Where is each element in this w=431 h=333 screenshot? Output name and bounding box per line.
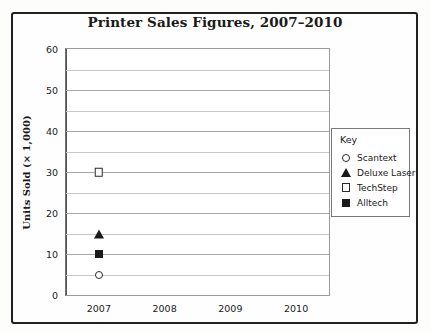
gridline — [66, 131, 329, 132]
y-axis-label-text: Units Sold (× 1,000) — [21, 115, 32, 229]
gridline — [66, 275, 329, 276]
gridline — [66, 90, 329, 91]
legend-marker-icon — [340, 168, 352, 177]
gridline — [66, 193, 329, 194]
y-tick-label: 40 — [46, 126, 58, 137]
x-tick-label: 2010 — [284, 303, 308, 314]
data-point-marker — [95, 271, 103, 279]
data-point-marker — [95, 168, 104, 177]
gridline — [66, 152, 329, 153]
gridline — [66, 213, 329, 214]
gridline — [66, 172, 329, 173]
y-tick-label: 0 — [52, 290, 58, 301]
data-point-marker — [95, 250, 103, 258]
data-point-marker — [94, 229, 104, 238]
legend-marker-icon — [340, 183, 352, 192]
y-axis-label: Units Sold (× 1,000) — [19, 48, 33, 296]
legend-entries: ScantextDeluxe LaserTechStepAlltech — [332, 150, 409, 210]
legend: Key ScantextDeluxe LaserTechStepAlltech — [331, 128, 410, 217]
y-tick-label: 20 — [46, 208, 58, 219]
legend-marker-icon — [340, 154, 352, 162]
legend-marker-icon — [340, 199, 352, 207]
gridline — [66, 234, 329, 235]
x-tick-label: 2008 — [153, 303, 177, 314]
chart-title: Printer Sales Figures, 2007–2010 — [40, 14, 390, 30]
chart-figure: Printer Sales Figures, 2007–2010 Units S… — [0, 0, 431, 333]
legend-label: Alltech — [357, 198, 388, 208]
legend-label: Scantext — [357, 153, 397, 163]
gridline — [66, 254, 329, 255]
legend-label: TechStep — [357, 183, 398, 193]
legend-label: Deluxe Laser — [357, 168, 416, 178]
x-tick-label: 2009 — [218, 303, 242, 314]
y-tick-label: 10 — [46, 249, 58, 260]
y-tick-label: 50 — [46, 85, 58, 96]
legend-title: Key — [332, 134, 409, 150]
y-tick-label: 30 — [46, 167, 58, 178]
gridline — [66, 111, 329, 112]
legend-entry: Deluxe Laser — [332, 165, 409, 180]
gridline — [66, 70, 329, 71]
x-tick-label: 2007 — [87, 303, 111, 314]
legend-entry: TechStep — [332, 180, 409, 195]
legend-entry: Alltech — [332, 195, 409, 210]
y-tick-label: 60 — [46, 44, 58, 55]
plot-area: 0102030405060 2007200820092010 — [65, 48, 330, 296]
legend-entry: Scantext — [332, 150, 409, 165]
